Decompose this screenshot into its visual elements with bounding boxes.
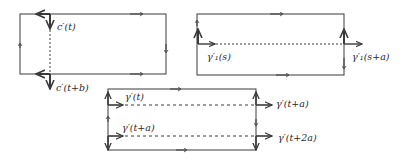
label-c-prime-t: c′(t) [57,22,76,32]
rectangle-left-top [20,14,166,89]
label-gamma-prime-t: γ′(t) [125,92,144,102]
label-gamma-prime-t-plus-2a: γ′(t+2a) [278,133,317,143]
rect-outline [20,14,166,74]
label-gamma1-prime-s: γ′₁(s) [207,52,231,62]
label-gamma-prime-t-plus-a-right: γ′(t+a) [276,99,309,109]
label-gamma-prime-t-plus-a-left: γ′(t+a) [122,123,155,133]
rectangle-right-top [197,14,362,75]
label-gamma1-prime-s-plus-a: γ′₁(s+a) [352,52,390,62]
label-c-prime-t-plus-b: c′(t+b) [56,83,89,93]
